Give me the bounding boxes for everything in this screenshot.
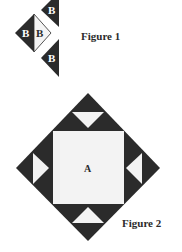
figure-1-caption: Figure 1 [81, 30, 120, 42]
bottom-b-label: B [48, 52, 56, 64]
figure-2-caption: Figure 2 [122, 217, 162, 229]
diamond-right-label: B [36, 27, 44, 39]
quilt-diagram: B B B B Figure 1 A Figure 2 [0, 0, 182, 252]
figure-1: B B B B Figure 1 [15, 0, 120, 77]
diamond-left-label: B [22, 27, 30, 39]
center-label-a: A [84, 163, 92, 174]
top-b-label: B [48, 4, 56, 16]
figure-2: A Figure 2 [16, 93, 162, 241]
